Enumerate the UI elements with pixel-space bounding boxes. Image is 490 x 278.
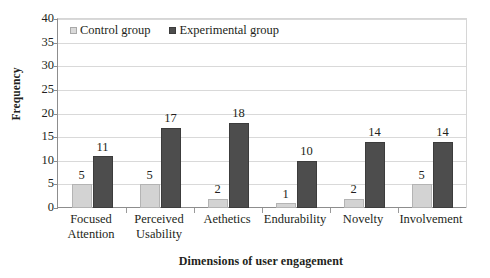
y-axis-tick-label: 15 xyxy=(26,130,54,143)
x-axis-category-labels: FocusedAttentionPerceivedUsabilityAethet… xyxy=(57,212,465,248)
y-axis-tick-label: 25 xyxy=(26,82,54,95)
y-axis-tickmark xyxy=(54,208,58,209)
x-axis-label-line: Usability xyxy=(115,227,203,242)
plot-area: 511517218110214514 xyxy=(57,18,467,208)
y-axis-title: Frequency xyxy=(10,44,22,144)
bar-value-label: 14 xyxy=(427,126,459,139)
bar-group: 218 xyxy=(194,19,262,208)
bar-control[interactable] xyxy=(140,184,160,208)
y-axis-tick-label: 10 xyxy=(26,153,54,166)
chart-legend: Control groupExperimental group xyxy=(70,24,279,37)
y-axis-tick-label: 30 xyxy=(26,59,54,72)
bar-value-label: 14 xyxy=(359,126,391,139)
x-axis-title: Dimensions of user engagement xyxy=(57,254,465,269)
bar-value-label: 18 xyxy=(223,107,255,120)
legend-swatch-icon xyxy=(70,27,77,34)
legend-label: Experimental group xyxy=(179,24,279,37)
y-axis-tick-label: 5 xyxy=(26,177,54,190)
bar-control[interactable] xyxy=(344,199,364,208)
legend-item[interactable]: Experimental group xyxy=(169,24,279,37)
legend-label: Control group xyxy=(80,24,150,37)
bar-value-label: 17 xyxy=(155,112,187,125)
y-axis-tick-label: 20 xyxy=(26,106,54,119)
x-axis-label-line: Involvement xyxy=(387,212,475,227)
bar-chart-figure: Frequency 0510152025303540 5115172181102… xyxy=(0,0,490,278)
legend-swatch-icon xyxy=(169,27,176,34)
bar-group: 514 xyxy=(398,19,466,208)
bar-experimental[interactable] xyxy=(161,128,181,208)
bar-control[interactable] xyxy=(412,184,432,208)
bar-control[interactable] xyxy=(72,184,92,208)
bar-experimental[interactable] xyxy=(93,156,113,208)
bar-control[interactable] xyxy=(208,199,228,208)
legend-item[interactable]: Control group xyxy=(70,24,150,37)
bar-control[interactable] xyxy=(276,203,296,208)
y-axis-tick-label: 35 xyxy=(26,35,54,48)
bar-group: 517 xyxy=(126,19,194,208)
bar-value-label: 10 xyxy=(291,145,323,158)
bar-group: 214 xyxy=(330,19,398,208)
bar-experimental[interactable] xyxy=(433,142,453,208)
bar-group: 511 xyxy=(58,19,126,208)
y-axis-tick-label: 40 xyxy=(26,12,54,25)
x-axis-category-label: Involvement xyxy=(387,212,475,227)
bar-experimental[interactable] xyxy=(229,123,249,208)
bar-group: 110 xyxy=(262,19,330,208)
y-axis-tick-labels: 0510152025303540 xyxy=(26,18,54,207)
bar-experimental[interactable] xyxy=(365,142,385,208)
bar-experimental[interactable] xyxy=(297,161,317,208)
bar-value-label: 11 xyxy=(87,141,119,154)
